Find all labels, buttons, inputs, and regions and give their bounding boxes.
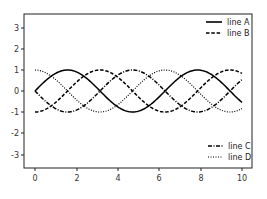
legend-label-a: line A	[227, 18, 250, 27]
legend-label-d: line D	[228, 153, 251, 162]
legend-label-c: line C	[228, 142, 251, 151]
x-tick-label: 2	[74, 174, 79, 183]
axes-frame	[24, 14, 252, 168]
y-tick-label: 1	[14, 66, 19, 75]
y-tick-label: 2	[14, 45, 19, 54]
chart: 3 2 1 0 -1 -2 -3 0 2 4 6 8 10 line A lin…	[0, 0, 267, 199]
y-tick-label: -3	[11, 151, 19, 160]
y-tick-label: 0	[14, 87, 19, 96]
x-tick-label: 8	[198, 174, 203, 183]
y-tick-label: -2	[11, 129, 19, 138]
x-tick-label: 4	[115, 174, 120, 183]
x-tick-label: 0	[32, 174, 37, 183]
x-tick-label: 6	[156, 174, 161, 183]
y-tick-label: 3	[14, 24, 19, 33]
x-axis: 0 2 4 6 8 10	[32, 168, 247, 183]
y-tick-label: -1	[11, 108, 19, 117]
legend-label-b: line B	[227, 29, 249, 38]
x-tick-label: 10	[237, 174, 247, 183]
y-axis: 3 2 1 0 -1 -2 -3	[11, 24, 24, 160]
